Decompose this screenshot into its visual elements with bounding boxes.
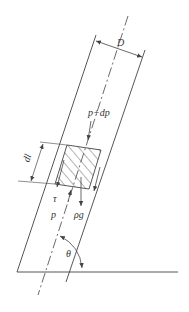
label-weight: ρg [73,209,84,220]
dl-extension-bottom [18,181,55,184]
label-angle: θ [66,248,71,259]
label-pressure-top: p+dp [87,107,110,118]
label-element-length: dl [21,152,34,163]
label-pressure-bottom: p [50,209,56,220]
dl-dimension [31,144,43,181]
label-diameter: D [116,37,125,48]
label-shear-stress: τ [53,193,57,204]
dl-extension-top [40,142,67,145]
pressure-bottom-arrow [68,190,71,202]
angle-arc [60,236,82,268]
inclined-pipe-diagram: D dl p+dp τ p ρg θ [0,0,189,312]
pressure-top-arrow [88,121,91,140]
